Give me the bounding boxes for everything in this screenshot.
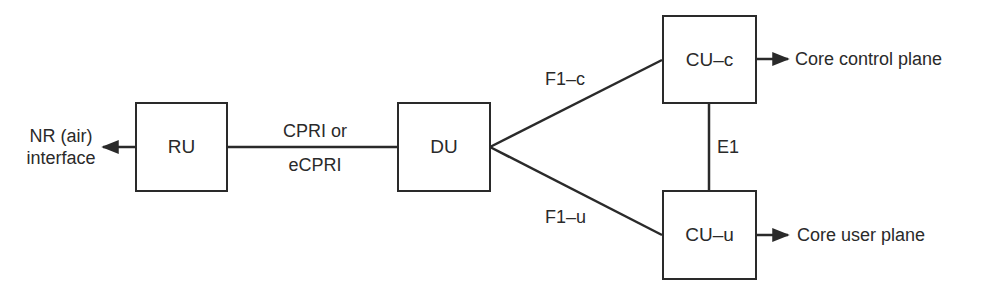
du-box: DU [397,102,491,192]
ru-box: RU [135,102,228,192]
cu-u-box: CU–u [662,190,757,280]
cu-c-label: CU–c [686,49,734,71]
cpri-label-bottom: eCPRI [260,156,370,174]
f1u-label: F1–u [545,208,586,226]
air-interface-line1: NR (air) [19,127,103,145]
du-label: DU [430,136,457,158]
ru-label: RU [168,136,195,158]
cu-u-label: CU–u [685,224,734,246]
air-interface-label: NR (air) interface [19,127,103,167]
cpri-label-top: CPRI or [260,122,370,140]
air-interface-line2: interface [19,149,103,167]
cu-c-box: CU–c [662,15,757,104]
f1c-label: F1–c [545,70,585,88]
e1-label: E1 [717,138,739,156]
core-control-plane-label: Core control plane [795,50,942,68]
core-user-plane-label: Core user plane [797,226,925,244]
